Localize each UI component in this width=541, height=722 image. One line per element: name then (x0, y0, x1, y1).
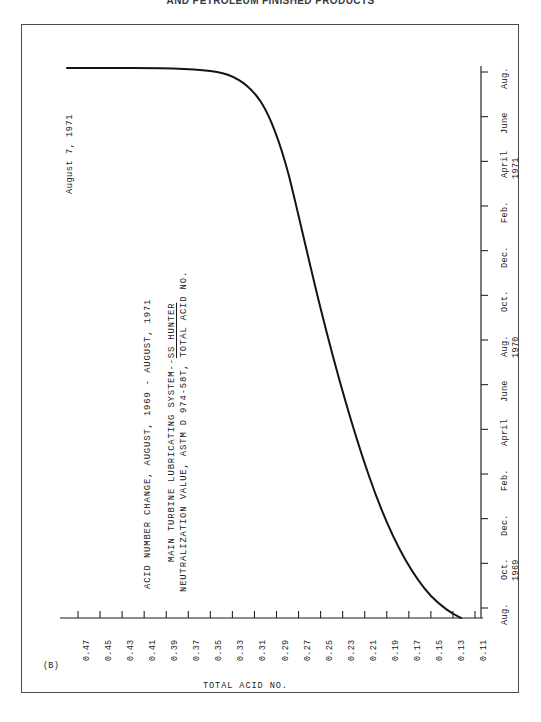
chart-title-line-1: ACID NUMBER CHANGE, AUGUST, 1969 - AUGUS… (143, 299, 153, 589)
time-axis-tick-label: April (500, 151, 510, 178)
value-axis-tick-label: 0.21 (369, 640, 379, 661)
value-axis-title: TOTAL ACID NO. (203, 681, 288, 691)
value-axis-tick-label: 0.19 (391, 640, 401, 661)
value-axis-tick-label: 0.33 (236, 640, 246, 661)
value-axis-tick-label: 0.23 (347, 640, 357, 661)
value-axis-tick-label: 0.39 (170, 640, 180, 661)
time-axis-tick-label: Dec. (500, 246, 510, 268)
value-axis-tick-label: 0.47 (82, 640, 92, 661)
value-axis-tick-label: 0.13 (457, 640, 467, 661)
acid-number-curve (67, 68, 461, 618)
time-axis-year-label: 1970 (511, 336, 521, 358)
time-axis-tick-label: June (500, 380, 510, 402)
time-axis-tick-label: Aug. (500, 67, 510, 89)
value-axis-tick-label: 0.29 (281, 640, 291, 661)
time-axis-tick-label: June (500, 112, 510, 134)
value-axis-tick-label: 0.41 (148, 640, 158, 661)
time-axis-ticks (481, 72, 488, 608)
value-axis-tick-label: 0.27 (303, 640, 313, 661)
chart-plot-area: 0.470.450.430.410.390.370.350.330.310.29… (21, 24, 519, 693)
value-axis-tick-label: 0.15 (435, 640, 445, 661)
document-header: AND PETROLEUM FINISHED PRODUCTS (0, 0, 541, 5)
time-axis-tick-label: Aug. (500, 335, 510, 357)
value-axis-tick-label: 0.17 (413, 640, 423, 661)
value-axis-tick-label: 0.31 (258, 640, 268, 661)
chart-title-line-2: MAIN TURBINE LUBRICATING SYSTEM--SS HUNT… (167, 303, 177, 562)
value-axis-tick-label: 0.37 (192, 640, 202, 661)
time-axis-tick-label: April (500, 419, 510, 446)
figure-corner-code: (B) (43, 661, 59, 671)
time-axis-year-label: 1971 (511, 157, 521, 179)
value-axis-tick-label: 0.11 (479, 640, 489, 661)
time-axis-year-label: 1969 (511, 559, 521, 581)
chart-title-line-3: NEUTRALIZATION VALUE, ASTM D 974-58T, TO… (179, 271, 189, 592)
value-axis-tick-label: 0.43 (126, 640, 136, 661)
value-axis-tick-label: 0.45 (104, 640, 114, 661)
value-axis-ticks (78, 611, 475, 618)
curve-annotation: August 7, 1971 (65, 114, 75, 194)
time-axis-tick-label: Feb. (500, 201, 510, 223)
value-axis-tick-label: 0.35 (214, 640, 224, 661)
value-axis-tick-label: 0.25 (325, 640, 335, 661)
time-axis-tick-label: Oct. (500, 558, 510, 580)
chart-svg (21, 24, 519, 693)
time-axis-tick-label: Oct. (500, 290, 510, 312)
time-axis-tick-label: Feb. (500, 469, 510, 491)
time-axis-tick-label: Aug. (500, 603, 510, 625)
time-axis-tick-label: Dec. (500, 514, 510, 536)
